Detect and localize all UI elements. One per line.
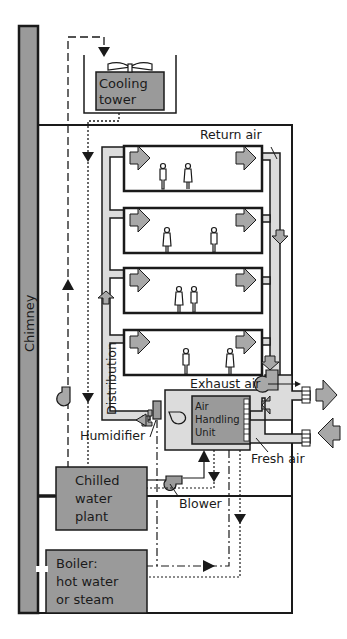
air-handling-unit: Air Handling Unit [192,396,250,444]
boiler-label-3: or steam [56,592,114,607]
humidifier-unit [153,401,161,419]
humidifier-label: Humidifier [80,428,146,443]
fresh-air-label: Fresh air [251,451,305,466]
chimney: Chimney [19,26,38,613]
cooling-tower-label-2: tower [99,92,137,107]
boiler-label-2: hot water [56,574,119,589]
cooling-tower: Cooling tower [84,55,176,113]
chilled-return-line [147,450,240,577]
cooling-tower-label-1: Cooling [99,76,148,91]
hvac-diagram: Chimney Cooling tower [0,0,347,639]
fan-icon [108,63,152,72]
chimney-label: Chimney [22,294,37,352]
arrow-up-icon [62,279,74,290]
fresh-air-arrow-icon [318,418,340,448]
ahu-label-1: Air [195,401,210,412]
louvers [302,387,310,446]
arrow-down-icon [82,393,94,403]
arrow-down-icon [98,47,110,57]
exhaust-arrow-icon [316,380,337,410]
arrow-down-icon [208,472,220,482]
boiler-label-1: Boiler: [56,556,98,571]
chilled-label-3: plant [75,509,108,524]
arrow-down-icon [234,514,246,524]
arrow-up-icon [198,450,210,462]
chilled-water-plant: Chilled water plant [56,467,147,530]
boiler: Boiler: hot water or steam [36,550,147,613]
arrow-up-icon [98,291,114,304]
arrow-right-icon [203,560,215,572]
blower-label: Blower [179,496,223,511]
ahu-label-3: Unit [195,427,215,438]
distribution-label: Distribution [104,342,119,415]
pump-icon [57,387,70,406]
arrow-down-icon [82,152,94,162]
ahu-label-2: Handling [195,414,240,425]
return-air-label: Return air [200,127,263,142]
exhaust-air-label: Exhaust air [190,376,261,391]
chilled-label-1: Chilled [75,473,119,488]
chilled-label-2: water [75,491,113,506]
